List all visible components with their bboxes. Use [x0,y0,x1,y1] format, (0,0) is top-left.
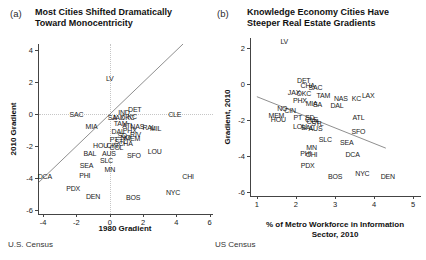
y-axis-tick-mark [35,114,38,115]
scatter-city-label: KC [352,94,361,101]
scatter-city-label: DAL [330,101,343,108]
x-axis-tick-mark [296,196,297,199]
x-axis-tick-label: 1 [255,200,259,209]
scatter-city-label: SA [313,100,322,107]
scatter-city-label: LV [280,37,288,44]
y-axis-tick-mark [247,156,250,157]
y-axis-tick-label: -2 [225,116,245,125]
panel-b-x-axis-label: % of Metro Workforce in Information Sect… [250,220,420,240]
x-axis-tick-mark [210,214,211,217]
y-axis-tick-mark [247,48,250,49]
two-panel-scatter-figure: (a) Most Cities Shifted Dramatically Tow… [0,0,426,260]
scatter-city-label: DEN [381,173,395,180]
scatter-city-label: SFO [352,127,366,134]
x-axis-tick-mark [143,214,144,217]
y-axis-tick-mark [247,84,250,85]
scatter-city-label: SEA [340,138,353,145]
y-axis-tick-label: -4 [225,152,245,161]
y-axis-tick-label: -2 [13,142,33,151]
x-axis-tick-mark [257,196,258,199]
scatter-city-label: PDX [301,162,315,169]
scatter-city-label: TAM [316,91,330,98]
scatter-city-label: MIA [86,123,98,130]
x-axis-tick-mark [110,214,111,217]
x-axis-tick-mark [335,196,336,199]
scatter-city-label: MN [105,166,116,173]
scatter-city-label: CLE [168,111,181,118]
x-axis-tick-mark [176,214,177,217]
panel-b-title: Knowledge Economy Cities Have Steeper Re… [247,7,423,29]
y-axis-tick-mark [35,146,38,147]
scatter-city-label: KC [128,112,137,119]
scatter-city-label: SFO [127,151,141,158]
scatter-city-label: AUS [102,149,116,156]
scatter-city-label: BAL [83,149,96,156]
scatter-city-label: DCA [346,151,360,158]
y-axis-tick-label: -6 [13,206,33,215]
x-axis-tick-mark [413,196,414,199]
y-axis-tick-label: -4 [13,174,33,183]
y-axis-tick-mark [35,82,38,83]
scatter-city-label: BOS [328,173,342,180]
scatter-city-label: OKC [296,90,311,97]
scatter-city-label: CHI [306,150,317,157]
scatter-city-label: SAC [70,111,84,118]
scatter-city-label: SLC [100,156,113,163]
x-axis-tick-label: 5 [411,200,415,209]
x-axis-tick-mark [374,196,375,199]
x-axis-tick-mark [43,214,44,217]
y-axis-tick-label: 0 [13,110,33,119]
scatter-city-label: CIN [284,107,295,114]
y-axis-tick-mark [35,50,38,51]
x-axis-tick-mark [76,214,77,217]
panel-a-title: Most Cities Shifted Dramatically Toward … [35,7,211,29]
y-axis-tick-label: 2 [225,44,245,53]
panel-a-x-axis-label: 1980 Gradient [38,224,212,234]
scatter-city-label: AUS [309,125,323,132]
y-axis-tick-label: 2 [13,78,33,87]
panel-a-source-note: U.S. Census [8,240,53,249]
y-axis-tick-label: 4 [13,46,33,55]
scatter-city-label: DCA [38,173,52,180]
panel-a-tag: (a) [10,8,22,19]
scatter-city-label: LAX [362,91,375,98]
scatter-city-label: NYC [355,169,369,176]
scatter-city-label: HOU [271,116,286,123]
scatter-city-label: CHI [182,172,193,179]
scatter-city-label: ATL [353,114,365,121]
y-axis-tick-mark [247,192,250,193]
scatter-city-label: PT [294,114,303,121]
scatter-city-label: LV [106,74,114,81]
y-axis-tick-mark [247,120,250,121]
scatter-city-label: BOS [126,194,140,201]
y-axis-tick-label: 0 [225,80,245,89]
panel-a-plot-area: -4-20246420-2-4-6LVSACINDDETCLESAJAXOKCK… [38,44,213,215]
scatter-city-label: MIL [150,124,161,131]
scatter-city-label: SLC [319,136,332,143]
x-axis-tick-label: 2 [294,200,298,209]
panel-b-tag: (b) [217,8,229,19]
scatter-city-label: PDX [66,184,80,191]
scatter-city-label: DEN [86,193,100,200]
scatter-city-label: PHI [79,171,90,178]
y-axis-tick-label: -6 [225,188,245,197]
scatter-city-label: SEA [80,162,93,169]
scatter-city-label: LOU [148,147,162,154]
x-axis-tick-label: 4 [372,200,376,209]
panel-b-plot-area: 1234520-2-4-6LVDETCHASACJAXOKCTAMNASKCLA… [250,38,421,197]
panel-b-source-note: US Census [215,240,255,249]
y-axis-tick-mark [35,210,38,211]
x-axis-tick-label: 3 [333,200,337,209]
scatter-city-label: NYC [166,188,180,195]
